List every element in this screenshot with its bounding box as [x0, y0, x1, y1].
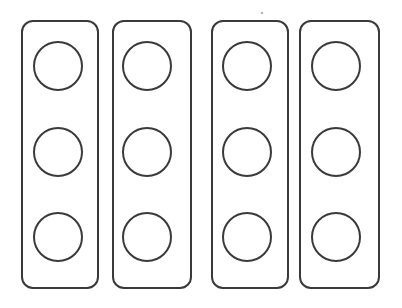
circle-4-3[interactable] [312, 213, 360, 261]
circle-2-3[interactable] [123, 213, 171, 261]
strip-4-group[interactable] [300, 21, 379, 288]
strip-3-group[interactable] [212, 21, 288, 288]
speck-mark [261, 12, 264, 15]
circle-3-1[interactable] [223, 42, 271, 90]
circle-4-2[interactable] [312, 128, 360, 176]
circle-2-1[interactable] [123, 42, 171, 90]
strip-2-group[interactable] [113, 21, 191, 288]
circle-1-2[interactable] [34, 128, 82, 176]
circle-3-3[interactable] [223, 213, 271, 261]
circle-2-2[interactable] [123, 128, 171, 176]
circle-4-1[interactable] [312, 42, 360, 90]
strip-1-group[interactable] [22, 21, 98, 288]
circle-1-3[interactable] [34, 213, 82, 261]
worksheet-canvas [0, 0, 402, 308]
circle-1-1[interactable] [34, 42, 82, 90]
circle-3-2[interactable] [223, 128, 271, 176]
counting-strips-figure [0, 0, 402, 308]
